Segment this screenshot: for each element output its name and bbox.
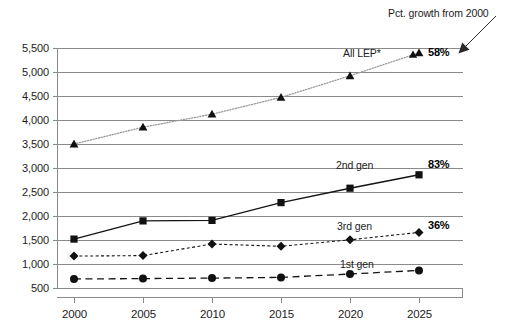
series-label-3rd-gen: 3rd gen bbox=[337, 221, 372, 232]
x-tick-label: 2025 bbox=[393, 309, 446, 321]
data-point bbox=[70, 252, 79, 261]
data-point bbox=[415, 228, 424, 237]
series-label-all-lep: All LEP* bbox=[343, 48, 381, 59]
data-point bbox=[70, 275, 78, 283]
series-label-2nd-gen: 2nd gen bbox=[336, 160, 373, 171]
y-tick-label: 1,000 bbox=[4, 259, 49, 270]
y-tick-label: 500 bbox=[4, 283, 49, 294]
y-axis bbox=[53, 48, 58, 289]
x-tick-label: 2000 bbox=[48, 309, 101, 321]
annotation-arrow-shaft bbox=[462, 16, 496, 50]
data-point bbox=[139, 217, 146, 224]
y-tick-label: 4,000 bbox=[4, 115, 49, 126]
pct-label-3rd-gen: 36% bbox=[428, 220, 449, 231]
series-all-lep bbox=[70, 48, 424, 147]
series-all-lep-line bbox=[74, 53, 419, 144]
y-tick-label: 5,000 bbox=[4, 67, 49, 78]
series-label-1st-gen: 1st gen bbox=[340, 259, 374, 270]
data-point bbox=[139, 251, 148, 260]
pct-label-all-lep: 58% bbox=[428, 47, 449, 58]
x-tick-label: 2020 bbox=[324, 309, 377, 321]
x-tick-label: 2015 bbox=[255, 309, 308, 321]
y-tick-label: 4,500 bbox=[4, 91, 49, 102]
gridlines bbox=[57, 49, 463, 289]
data-point bbox=[70, 236, 77, 243]
y-tick-label: 3,500 bbox=[4, 139, 49, 150]
data-point bbox=[415, 171, 422, 178]
data-point bbox=[277, 199, 284, 206]
data-point bbox=[277, 242, 286, 251]
data-point bbox=[139, 275, 147, 283]
x-tick-label: 2005 bbox=[117, 309, 170, 321]
chart-container: 5,500 5,000 4,500 4,000 3,500 3,000 2,50… bbox=[0, 0, 505, 331]
series-3rd-gen-line bbox=[74, 232, 419, 256]
data-point bbox=[346, 235, 355, 244]
x-axis bbox=[57, 289, 463, 303]
data-point bbox=[346, 270, 354, 278]
data-point bbox=[208, 274, 216, 282]
x-tick-label: 2010 bbox=[186, 309, 239, 321]
data-point bbox=[415, 266, 423, 274]
series-3rd-gen bbox=[70, 228, 424, 261]
annotation-arrow bbox=[459, 16, 497, 54]
data-point bbox=[277, 273, 285, 281]
annotation-pct-growth-note: Pct. growth from 2000 bbox=[388, 8, 489, 19]
y-tick-label: 3,000 bbox=[4, 163, 49, 174]
data-point bbox=[415, 48, 424, 56]
y-tick-label: 2,000 bbox=[4, 211, 49, 222]
y-tick-label: 5,500 bbox=[4, 43, 49, 54]
data-point bbox=[208, 217, 215, 224]
series-1st-gen-line bbox=[74, 270, 419, 279]
data-point bbox=[346, 185, 353, 192]
pct-label-2nd-gen: 83% bbox=[428, 159, 449, 170]
y-tick-label: 1,500 bbox=[4, 235, 49, 246]
y-tick-label: 2,500 bbox=[4, 187, 49, 198]
